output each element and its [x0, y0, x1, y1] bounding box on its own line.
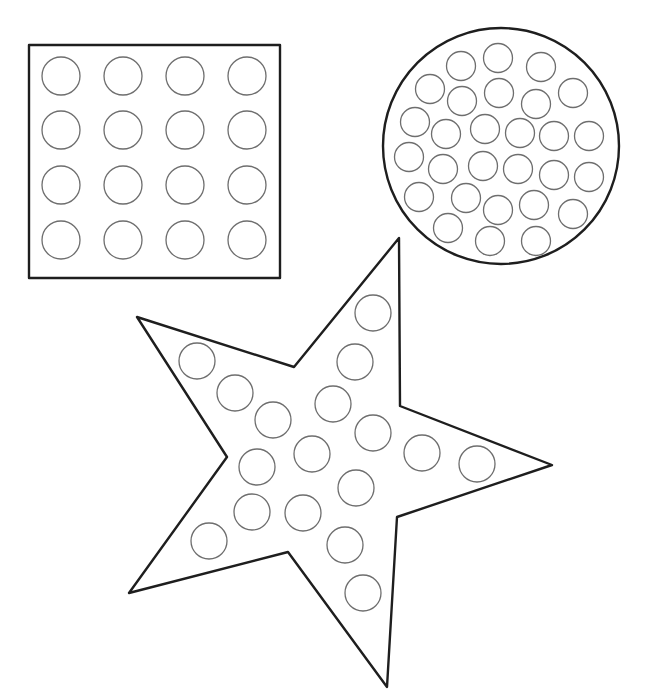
square-dot [228, 221, 266, 259]
star-dots [179, 295, 495, 611]
star-dot [234, 494, 270, 530]
circle-dots [395, 44, 604, 256]
circle-dot [540, 161, 569, 190]
circle-dot [416, 75, 445, 104]
circle-dot [429, 155, 458, 184]
star-dot [285, 495, 321, 531]
circle-dot [540, 122, 569, 151]
square-dot [166, 111, 204, 149]
star-dot [355, 415, 391, 451]
square-dot [104, 166, 142, 204]
worksheet-canvas [0, 0, 657, 700]
circle-shape [383, 28, 619, 264]
circle-dot [395, 143, 424, 172]
circle-dot [405, 183, 434, 212]
circle-dot [485, 79, 514, 108]
square-dot [104, 57, 142, 95]
star-dot [337, 344, 373, 380]
circle-dot [448, 87, 477, 116]
square-dot [104, 111, 142, 149]
star-dot [315, 386, 351, 422]
square-dot [166, 57, 204, 95]
circle-dot [471, 115, 500, 144]
circle-dot [401, 108, 430, 137]
circle-dot [484, 44, 513, 73]
star-dot [191, 523, 227, 559]
star-dot [294, 436, 330, 472]
circle-dot [559, 200, 588, 229]
star-dot [217, 375, 253, 411]
circle-dot [520, 191, 549, 220]
square-dot [166, 166, 204, 204]
square-dot [166, 221, 204, 259]
star-dot [459, 446, 495, 482]
circle-dot [476, 227, 505, 256]
star-dot [179, 343, 215, 379]
square-dot [228, 166, 266, 204]
square-dot [42, 111, 80, 149]
star-dot [327, 527, 363, 563]
star-dot [255, 402, 291, 438]
star-dot [239, 449, 275, 485]
circle-dot [447, 52, 476, 81]
square-shape [29, 45, 280, 278]
square-dot [42, 221, 80, 259]
star-dot [338, 470, 374, 506]
circle-dot [522, 90, 551, 119]
star-dot [404, 435, 440, 471]
star-dot [345, 575, 381, 611]
square-dots [42, 57, 266, 259]
square-dot [228, 57, 266, 95]
circle-dot [434, 214, 463, 243]
square-dot [104, 221, 142, 259]
circle-dot [432, 120, 461, 149]
circle-dot [506, 119, 535, 148]
circle-dot [575, 122, 604, 151]
circle-dot [575, 163, 604, 192]
square-dot [42, 57, 80, 95]
star-dot [355, 295, 391, 331]
circle-dot [559, 79, 588, 108]
circle-dot [469, 152, 498, 181]
square-dot [42, 166, 80, 204]
square-dot [228, 111, 266, 149]
star-shape [129, 238, 552, 687]
circle-dot [484, 196, 513, 225]
circle-dot [452, 184, 481, 213]
circle-dot [527, 53, 556, 82]
circle-dot [522, 227, 551, 256]
circle-dot [504, 155, 533, 184]
